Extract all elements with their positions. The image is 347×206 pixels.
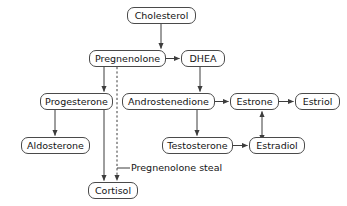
- node-label-estrone: Estrone: [235, 97, 273, 107]
- node-label-aldosterone: Aldosterone: [26, 141, 85, 151]
- node-pregnenolone[interactable]: Pregnenolone: [89, 50, 166, 67]
- node-label-progesterone: Progesterone: [44, 97, 109, 107]
- node-label-androstenedione: Androstenedione: [127, 97, 210, 107]
- pathway-diagram: Cholesterol Pregnenolone DHEA Progestero…: [0, 0, 347, 206]
- node-testosterone[interactable]: Testosterone: [162, 137, 233, 154]
- node-label-estradiol: Estradiol: [255, 141, 299, 151]
- node-androstenedione[interactable]: Androstenedione: [122, 93, 215, 110]
- node-estriol[interactable]: Estriol: [295, 93, 340, 110]
- node-progesterone[interactable]: Progesterone: [40, 93, 113, 110]
- node-label-testosterone: Testosterone: [166, 141, 228, 151]
- node-label-pregnenolone: Pregnenolone: [94, 54, 161, 64]
- node-label-estriol: Estriol: [302, 97, 334, 107]
- node-aldosterone[interactable]: Aldosterone: [21, 137, 90, 154]
- node-label-cortisol: Cortisol: [94, 186, 132, 196]
- node-label-cholesterol: Cholesterol: [134, 11, 190, 21]
- node-cortisol[interactable]: Cortisol: [88, 182, 138, 199]
- node-label-dhea: DHEA: [189, 54, 218, 64]
- node-estrone[interactable]: Estrone: [230, 93, 279, 110]
- annotation-pregnenolone-steal: Pregnenolone steal: [131, 163, 222, 173]
- node-estradiol[interactable]: Estradiol: [249, 137, 305, 154]
- node-dhea[interactable]: DHEA: [181, 50, 225, 67]
- node-cholesterol[interactable]: Cholesterol: [127, 7, 196, 24]
